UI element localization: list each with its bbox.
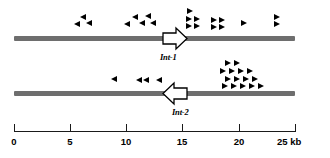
marker-triangle (156, 77, 162, 83)
axis-label-25-kb: 25 kb (277, 136, 301, 147)
marker-triangle (249, 83, 255, 89)
marker-triangle (234, 76, 240, 82)
axis-tick-25 (295, 124, 296, 132)
marker-triangle (187, 8, 193, 14)
int-1-label: Int-1 (160, 52, 176, 62)
marker-triangle (231, 83, 237, 89)
marker-triangle (150, 20, 156, 26)
int-1-arrow (162, 27, 188, 50)
marker-triangle (238, 68, 244, 74)
marker-triangle (111, 76, 117, 82)
axis-label-0: 0 (11, 136, 16, 147)
marker-triangle (222, 83, 228, 89)
axis-label-5: 5 (67, 136, 72, 147)
axis-line (14, 131, 295, 132)
marker-triangle (74, 21, 80, 27)
marker-triangle (132, 14, 138, 20)
marker-triangle (247, 68, 253, 74)
marker-triangle (211, 24, 217, 30)
int-2-arrow (162, 82, 188, 105)
marker-triangle (220, 68, 226, 74)
marker-triangle (139, 20, 145, 26)
track-1-bar (14, 36, 295, 41)
marker-triangle (186, 16, 192, 22)
axis-tick-0 (14, 124, 15, 132)
marker-triangle (229, 68, 235, 74)
marker-triangle (274, 14, 280, 20)
marker-triangle (225, 60, 231, 66)
marker-triangle (219, 24, 225, 30)
marker-triangle (211, 17, 217, 23)
marker-triangle (234, 60, 240, 66)
marker-triangle (252, 76, 258, 82)
marker-triangle (186, 23, 192, 29)
axis-label-10: 10 (121, 136, 132, 147)
marker-triangle (136, 77, 142, 83)
marker-triangle (258, 83, 264, 89)
marker-triangle (194, 16, 200, 22)
genomic-map-figure: Int-1 Int-2 (0, 0, 330, 158)
axis-tick-5 (70, 124, 71, 132)
axis-tick-10 (126, 124, 127, 132)
marker-triangle (143, 77, 149, 83)
marker-triangle (241, 20, 247, 26)
marker-triangle (243, 76, 249, 82)
axis-label-15: 15 (177, 136, 188, 147)
marker-triangle (225, 76, 231, 82)
int-2-label: Int-2 (172, 107, 188, 117)
axis-tick-15 (182, 124, 183, 132)
marker-triangle (145, 13, 151, 19)
axis-label-20: 20 (234, 136, 245, 147)
track-2-bar (14, 91, 295, 96)
marker-triangle (124, 21, 130, 27)
axis-tick-20 (239, 124, 240, 132)
marker-triangle (240, 83, 246, 89)
marker-triangle (194, 23, 200, 29)
marker-triangle (86, 20, 92, 26)
marker-triangle (219, 17, 225, 23)
marker-triangle (274, 21, 280, 27)
